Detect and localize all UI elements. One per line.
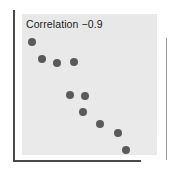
data-point [70,58,78,66]
data-point [96,120,104,128]
data-point [122,146,130,154]
right-border-rule [166,38,167,160]
chart-title: Correlation −0.9 [26,18,103,31]
data-point [79,108,87,116]
x-axis-line [13,160,141,162]
data-point [38,55,46,63]
plot-panel [22,14,157,155]
data-point [66,91,74,99]
data-point [114,129,122,137]
data-point [53,59,61,67]
data-point [81,92,89,100]
y-axis-line [13,10,15,162]
data-point [28,38,36,46]
correlation-scatterplot-figure: Correlation −0.9 [0,0,173,173]
